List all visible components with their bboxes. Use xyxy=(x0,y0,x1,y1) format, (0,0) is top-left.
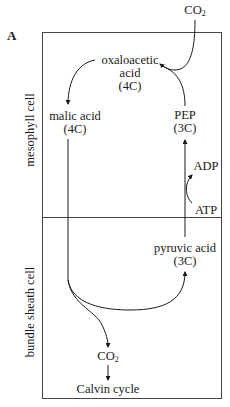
panel-label: A xyxy=(7,28,16,44)
oxaloacetic-carbon-count: (4C) xyxy=(102,80,159,93)
co2-input-text: CO xyxy=(184,3,201,17)
malic-acid-label: malic acid (4C) xyxy=(49,110,101,136)
pep-label: PEP (3C) xyxy=(174,109,197,135)
co2-input-subscript: 2 xyxy=(202,9,206,18)
co2-input-label: CO2 xyxy=(184,4,205,17)
malic-to-co2-arrow xyxy=(68,280,108,347)
malic-carbon-count: (4C) xyxy=(49,123,101,136)
pyruvic-acid-label: pyruvic acid (3C) xyxy=(154,242,216,268)
pep-to-oxaloacetic-arrow xyxy=(162,66,185,106)
c4-pathway-diagram: A mesophyll cell bundle sheath cell CO2 … xyxy=(0,0,230,407)
oxaloacetic-acid-label: oxaloacetic acid (4C) xyxy=(102,54,159,93)
atp-to-adp-arrow xyxy=(186,175,192,203)
co2-to-oxaloacetic-arrow xyxy=(160,20,195,70)
adp-label: ADP xyxy=(193,160,218,173)
pyruvic-carbon-count: (3C) xyxy=(154,255,216,268)
mesophyll-cell-label: mesophyll cell xyxy=(23,93,38,166)
co2-output-text: CO xyxy=(97,349,114,363)
co2-output-label: CO2 xyxy=(97,350,118,363)
malic-to-pyruvic-arrow xyxy=(68,272,185,310)
pep-carbon-count: (3C) xyxy=(174,122,197,135)
calvin-cycle-label: Calvin cycle xyxy=(77,383,140,396)
co2-output-subscript: 2 xyxy=(115,355,119,364)
atp-label: ATP xyxy=(195,204,217,217)
oxaloacetic-to-malic-arrow xyxy=(68,60,95,104)
bundle-sheath-cell-label: bundle sheath cell xyxy=(23,267,38,357)
